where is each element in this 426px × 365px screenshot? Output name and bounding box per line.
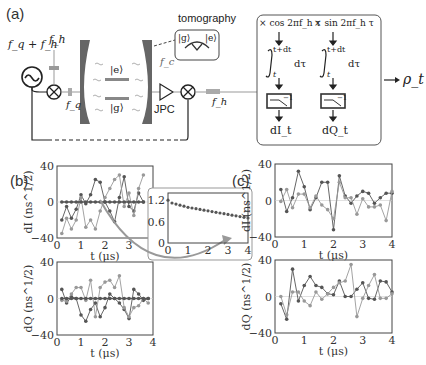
svg-text:t (μs): t (μs)	[90, 347, 119, 360]
svg-text:4: 4	[150, 336, 157, 349]
svg-text:1: 1	[301, 238, 308, 251]
svg-text:0: 0	[54, 336, 61, 349]
svg-text:1: 1	[78, 336, 85, 349]
svg-text:2: 2	[205, 244, 212, 257]
svg-text:t (μs): t (μs)	[319, 345, 348, 358]
svg-text:40: 40	[40, 256, 54, 269]
svg-text:3: 3	[126, 336, 133, 349]
svg-text:1: 1	[301, 334, 308, 347]
svg-text:0: 0	[47, 293, 54, 306]
svg-text:dQ (ns^1/2): dQ (ns^1/2)	[240, 263, 253, 331]
svg-text:40: 40	[258, 254, 272, 267]
svg-text:1: 1	[78, 239, 85, 252]
svg-text:0: 0	[265, 291, 272, 304]
svg-text:3: 3	[225, 244, 232, 257]
svg-text:0: 0	[158, 237, 165, 250]
svg-text:3: 3	[359, 238, 366, 251]
svg-text:dI (ns^1/2): dI (ns^1/2)	[240, 169, 253, 232]
svg-text:40: 40	[258, 158, 272, 171]
svg-text:1.2: 1.2	[148, 194, 166, 207]
svg-text:0: 0	[54, 239, 61, 252]
svg-text:0: 0	[165, 244, 172, 257]
svg-text:0.6: 0.6	[148, 216, 166, 229]
plots: 01234−40040t (μs)dI (ns^1/2)0123400.61.2…	[0, 0, 426, 365]
svg-text:0: 0	[265, 195, 272, 208]
svg-text:1: 1	[185, 244, 192, 257]
svg-text:dI (ns^1/2): dI (ns^1/2)	[22, 170, 35, 233]
svg-text:0: 0	[47, 196, 54, 209]
svg-text:0: 0	[272, 238, 279, 251]
svg-text:0: 0	[272, 334, 279, 347]
svg-text:4: 4	[389, 238, 396, 251]
svg-text:3: 3	[359, 334, 366, 347]
svg-text:dQ (ns^1/2): dQ (ns^1/2)	[22, 265, 35, 333]
svg-text:4: 4	[245, 244, 252, 257]
svg-text:40: 40	[40, 160, 54, 173]
svg-text:t (μs): t (μs)	[90, 250, 119, 263]
svg-text:4: 4	[389, 334, 396, 347]
